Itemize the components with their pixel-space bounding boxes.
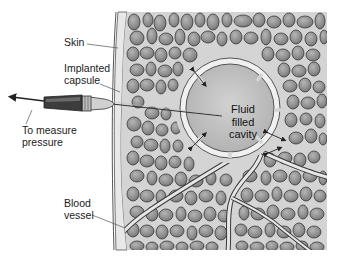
label-fluid-filled-cavity: Fluid filled cavity — [218, 103, 268, 141]
label-implanted-capsule: Implanted capsule — [64, 62, 110, 86]
label-blood-vessel: Blood vessel — [64, 197, 94, 221]
pressure-connector — [12, 95, 114, 111]
label-skin: Skin — [64, 36, 84, 48]
direction-arrow — [12, 97, 44, 101]
label-to-measure-pressure: To measure pressure — [22, 124, 77, 148]
